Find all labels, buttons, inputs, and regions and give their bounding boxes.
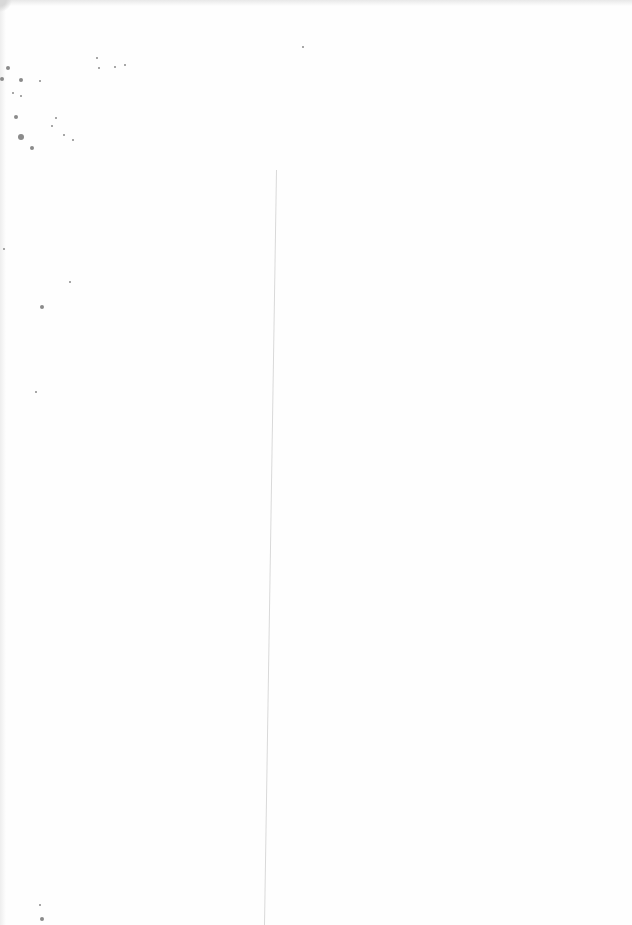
scanned-page <box>0 0 632 925</box>
noise-speck <box>69 281 71 283</box>
noise-speck <box>63 134 65 136</box>
top-edge-shadow <box>0 0 632 6</box>
left-edge-shadow <box>0 0 6 925</box>
noise-speck <box>55 117 57 119</box>
corner-mark <box>0 0 14 14</box>
noise-speck <box>19 78 23 82</box>
noise-speck <box>98 67 100 69</box>
noise-speck <box>39 80 41 82</box>
noise-speck <box>51 125 53 127</box>
noise-speck <box>114 66 116 68</box>
noise-speck <box>30 146 34 150</box>
noise-speck <box>302 46 304 48</box>
noise-speck <box>72 139 74 141</box>
noise-speck <box>12 92 14 94</box>
fold-line <box>264 170 277 925</box>
noise-speck <box>96 57 98 59</box>
noise-speck <box>20 95 22 97</box>
noise-speck <box>124 64 126 66</box>
noise-speck <box>0 77 4 81</box>
noise-speck <box>39 904 41 906</box>
noise-speck <box>40 305 44 309</box>
noise-speck <box>35 391 37 393</box>
noise-speck <box>14 115 18 119</box>
noise-speck <box>40 917 44 921</box>
noise-speck <box>3 248 5 250</box>
noise-speck <box>6 66 10 70</box>
noise-speck <box>18 134 24 140</box>
